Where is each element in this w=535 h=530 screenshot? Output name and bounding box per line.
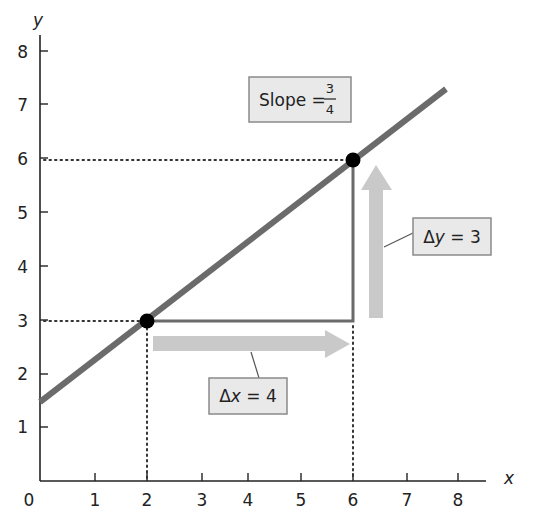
linear-function-line [40,89,446,402]
delta-symbol: Δ [219,386,231,406]
y-tick-label: 8 [17,42,28,62]
delta-y-leader [384,233,413,247]
y-tick-label: 3 [17,311,28,331]
y-tick-label: 2 [17,364,28,384]
point-2-3 [140,314,155,329]
x-tick-label: 5 [296,490,307,510]
delta-y-arrow [361,165,392,318]
delta-x-label: Δx = 4 [209,378,287,414]
y-ticks [40,51,48,427]
svg-text:Δy = 3: Δy = 3 [423,227,481,247]
y-tick-label: 7 [17,95,28,115]
delta-y-value: = 3 [445,227,481,247]
slope-denominator: 4 [326,102,334,117]
slope-label: Slope = 3 4 [249,77,351,122]
x-ticks [95,473,458,481]
delta-x-leader [251,352,259,378]
delta-y-label: Δy = 3 [413,218,491,255]
x-tick-label: 0 [24,490,35,510]
x-tick-label: 7 [402,490,413,510]
x-tick-label: 2 [142,490,153,510]
y-tick-label: 5 [17,203,28,223]
slope-numerator: 3 [326,81,334,96]
svg-text:Δx = 4: Δx = 4 [219,386,277,406]
point-6-6 [346,153,361,168]
y-tick-label: 1 [17,417,28,437]
delta-x-value: = 4 [241,386,277,406]
x-tick-label: 6 [348,490,359,510]
y-tick-label: 6 [17,149,28,169]
x-tick-label: 8 [453,490,464,510]
y-axis-label: y [32,10,44,30]
slope-label-text: Slope = [259,90,326,110]
delta-symbol: Δ [423,227,435,247]
x-tick-label: 4 [243,490,254,510]
x-axis-label: x [503,468,515,488]
x-tick-label: 1 [90,490,101,510]
x-tick-label: 3 [197,490,208,510]
y-tick-label: 4 [17,257,28,277]
slope-diagram: 1 2 3 4 5 6 7 8 0 1 2 3 4 5 6 7 8 y x Sl… [0,0,535,530]
